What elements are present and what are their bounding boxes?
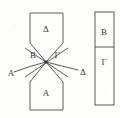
- label-center-left: B: [30, 51, 36, 60]
- label-center-right: Γ: [54, 51, 59, 60]
- label-right-box-top: B: [101, 28, 107, 37]
- label-right-box-bottom: Γ: [101, 58, 106, 67]
- right-curve-path: [46, 62, 78, 70]
- label-top-polygon: Δ: [43, 25, 49, 34]
- label-curve-left-end: A: [8, 69, 15, 78]
- center-node: [44, 60, 47, 63]
- left-curve-path: [14, 62, 46, 72]
- bottom-polygon-shape: [30, 62, 63, 110]
- label-bottom-polygon: A: [43, 89, 50, 98]
- figure-container: Δ A B Γ A Δ B Γ: [0, 0, 120, 118]
- label-curve-right-end: Δ: [80, 68, 86, 77]
